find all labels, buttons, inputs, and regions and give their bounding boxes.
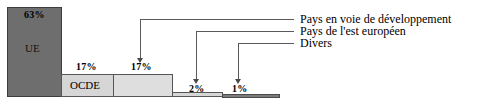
leader-stem-pays-de-lest-europeen — [196, 31, 197, 80]
legend-item-divers: Divers — [300, 37, 332, 49]
bar-value-label-ocde: 17% — [76, 61, 97, 72]
leader-stem-pays-en-voie-de-developpement — [140, 19, 141, 59]
arrow-down-icon — [137, 58, 143, 63]
arrow-down-icon — [235, 79, 241, 84]
leader-line-divers — [238, 43, 294, 44]
bar-category-label-ue: UE — [25, 42, 40, 54]
leader-line-pays-de-lest-europeen — [196, 31, 294, 32]
arrow-down-icon — [193, 79, 199, 84]
bar-chart: 63% UE 17% OCDE 17% 2% 1% Pays en voie d… — [0, 0, 486, 106]
leader-line-pays-en-voie-de-developpement — [140, 19, 294, 20]
bar-pays-en-voie-de-developpement — [113, 74, 173, 97]
bar-category-label-ocde: OCDE — [70, 79, 100, 91]
bar-divers — [222, 94, 280, 98]
bar-value-label-ue: 63% — [24, 9, 45, 20]
bar-value-label-pays-de-lest-europeen: 2% — [189, 83, 204, 94]
leader-stem-divers — [238, 43, 239, 80]
bar-value-label-divers: 1% — [232, 83, 247, 94]
